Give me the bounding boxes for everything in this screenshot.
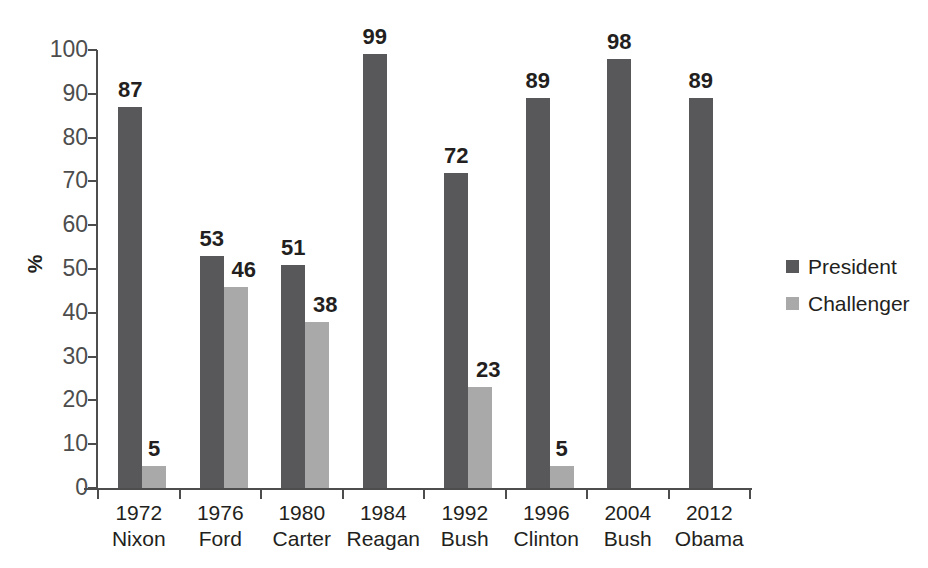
x-tick-mark <box>668 490 670 499</box>
y-tick-label-50: 50 <box>36 257 88 280</box>
y-tick-label-90: 90 <box>36 82 88 105</box>
bar-value-president: 89 <box>526 70 550 92</box>
bar-president <box>281 265 305 488</box>
bar-challenger <box>305 322 329 488</box>
y-tick-label-0: 0 <box>36 476 88 499</box>
legend-item-president: President <box>786 256 926 277</box>
x-tick-mark <box>260 490 262 499</box>
x-tick-mark <box>97 490 99 499</box>
bar-president <box>444 173 468 488</box>
y-tick-label-70: 70 <box>36 169 88 192</box>
bar-chart: % 1009080706050403020100 875534651389972… <box>0 0 928 568</box>
legend-label: President <box>808 256 897 277</box>
y-tick-label-40: 40 <box>36 301 88 324</box>
bar-challenger <box>142 466 166 488</box>
x-tick-mark <box>749 490 751 499</box>
bar-group: 7223 <box>424 50 506 488</box>
bar-challenger <box>224 287 248 488</box>
bar-value-president: 99 <box>363 26 387 48</box>
bar-group: 5346 <box>180 50 262 488</box>
bar-value-president: 87 <box>118 79 142 101</box>
chart-legend: PresidentChallenger <box>786 256 926 330</box>
x-tick-mark <box>505 490 507 499</box>
x-tick-mark <box>586 490 588 499</box>
bar-challenger <box>550 466 574 488</box>
x-axis-label-name: Obama <box>654 526 764 552</box>
x-axis-label-obama-2012: 2012Obama <box>654 500 764 552</box>
bar-value-president: 53 <box>200 228 224 250</box>
y-tick-label-30: 30 <box>36 345 88 368</box>
y-tick-label-60: 60 <box>36 213 88 236</box>
bar-group: 5138 <box>261 50 343 488</box>
bar-group: 895 <box>506 50 588 488</box>
x-axis-line <box>84 488 752 490</box>
x-axis-label-year: 2012 <box>654 500 764 526</box>
bar-president <box>118 107 142 488</box>
bar-value-challenger: 5 <box>550 438 574 460</box>
bar-president <box>363 54 387 488</box>
bar-president <box>689 98 713 488</box>
bar-group: 875 <box>98 50 180 488</box>
x-tick-mark <box>342 490 344 499</box>
legend-item-challenger: Challenger <box>786 293 926 314</box>
bar-challenger <box>468 387 492 488</box>
legend-label: Challenger <box>808 293 910 314</box>
plot-area: 875534651389972238959889 <box>98 50 752 488</box>
x-tick-mark <box>423 490 425 499</box>
bar-value-president: 51 <box>281 237 305 259</box>
y-tick-label-100: 100 <box>36 38 88 61</box>
y-tick-label-20: 20 <box>36 388 88 411</box>
bar-group: 98 <box>587 50 669 488</box>
bar-president <box>200 256 224 488</box>
bar-group: 99 <box>343 50 425 488</box>
y-tick-label-80: 80 <box>36 126 88 149</box>
y-tick-label-10: 10 <box>36 432 88 455</box>
bar-value-president: 98 <box>607 31 631 53</box>
x-tick-mark <box>179 490 181 499</box>
bar-value-president: 72 <box>444 145 468 167</box>
legend-swatch-icon <box>786 297 799 310</box>
bar-value-challenger: 5 <box>142 438 166 460</box>
bar-group: 89 <box>669 50 751 488</box>
bar-president <box>607 59 631 488</box>
bar-president <box>526 98 550 488</box>
legend-swatch-icon <box>786 260 799 273</box>
bar-value-president: 89 <box>689 70 713 92</box>
